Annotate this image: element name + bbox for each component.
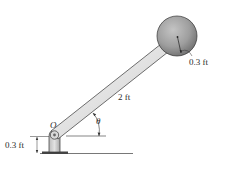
diagram-canvas: O 2 ft θ 0.3 ft 0.3 ft xyxy=(0,0,225,172)
pivot-label: O xyxy=(50,120,57,130)
pin-joint xyxy=(50,131,58,139)
height-dimension xyxy=(30,137,49,154)
pivot-height-label: 0.3 ft xyxy=(5,140,24,150)
rod-length-label: 2 ft xyxy=(118,92,131,102)
angle-label: θ xyxy=(96,116,101,126)
ball-radius-label: 0.3 ft xyxy=(189,57,208,67)
ball xyxy=(157,16,197,56)
rod xyxy=(51,44,168,139)
